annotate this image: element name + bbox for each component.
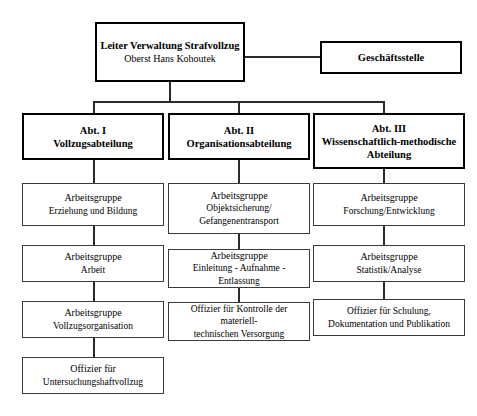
- connector-abt-1-child-3-to-4: [93, 338, 95, 357]
- connector-abt-2-child-2-to-3: [238, 288, 240, 302]
- node-abt-3-child-2-line2: Statistik/Analyse: [357, 265, 422, 275]
- node-geschaeftsstelle[interactable]: Geschäftsstelle: [320, 41, 462, 74]
- node-abt-2[interactable]: Abt. II Organisationsabteilung: [168, 113, 310, 160]
- node-abt-2-child-1-line3: Gefangenentransport: [199, 216, 279, 226]
- node-abt-3-child-1-line2: Forschung/Entwicklung: [343, 206, 434, 216]
- node-abt-3-line3: Abteilung: [367, 149, 411, 160]
- connector-abt-3-child-1-to-2: [383, 226, 385, 245]
- node-abt-3-line1: Abt. III: [372, 123, 406, 134]
- node-abt-3-child-3[interactable]: Offizier für Schulung, Dokumentation und…: [313, 299, 465, 336]
- node-abt-3-child-1-line1: Arbeitsgruppe: [360, 192, 417, 203]
- node-abt-1-child-1-line1: Arbeitsgruppe: [64, 192, 121, 203]
- node-abt-2-child-1-line2: Objektsicherung/: [206, 203, 271, 213]
- node-abt-1[interactable]: Abt. I Vollzugsabteilung: [22, 113, 164, 160]
- connector-abt-1-child-2-to-3: [93, 282, 95, 301]
- connector-abt-3-to-child-1: [383, 169, 385, 183]
- connector-bus-to-abt-2: [238, 101, 240, 113]
- node-abt-3-child-3-line2: Dokumentation und Publikation: [328, 319, 450, 329]
- connector-abt-1-child-1-to-2: [93, 226, 95, 245]
- node-abt-1-child-3[interactable]: Arbeitsgruppe Vollzugsorganisation: [22, 301, 164, 338]
- connector-bus-to-abt-3: [383, 101, 385, 113]
- node-abt-1-child-2-line2: Arbeit: [81, 265, 105, 275]
- node-abt-1-child-1[interactable]: Arbeitsgruppe Erziehung und Bildung: [22, 183, 164, 226]
- node-abt-1-child-3-line1: Arbeitsgruppe: [64, 307, 121, 318]
- connector-bus-to-abt-1: [93, 101, 95, 113]
- node-abt-2-child-2-line1: Arbeitsgruppe: [210, 250, 267, 261]
- node-abt-2-child-3-line1: Offizier für Kontrolle der materiell-: [191, 304, 288, 327]
- node-abt-2-child-3[interactable]: Offizier für Kontrolle der materiell- te…: [168, 302, 310, 341]
- connector-root-to-geschaeftsstelle: [245, 56, 320, 58]
- node-abt-1-line2: Vollzugsabteilung: [53, 138, 133, 149]
- node-root[interactable]: Leiter Verwaltung Strafvollzug Oberst Ha…: [95, 22, 245, 82]
- node-abt-2-child-3-line2: technischen Versorgung: [194, 329, 285, 339]
- node-abt-3[interactable]: Abt. III Wissenschaftlich-methodische Ab…: [313, 113, 465, 169]
- connector-root-trunk: [169, 82, 171, 102]
- node-abt-3-child-3-line1: Offizier für Schulung,: [347, 306, 431, 316]
- node-root-subtitle: Oberst Hans Kohoutek: [124, 53, 216, 64]
- node-abt-3-child-1[interactable]: Arbeitsgruppe Forschung/Entwicklung: [313, 183, 465, 226]
- node-abt-3-line2: Wissenschaftlich-methodische: [322, 136, 457, 147]
- node-abt-2-line1: Abt. II: [224, 125, 254, 136]
- node-abt-2-child-2[interactable]: Arbeitsgruppe Einleitung - Aufnahme - En…: [168, 249, 310, 288]
- node-abt-1-child-2[interactable]: Arbeitsgruppe Arbeit: [22, 245, 164, 282]
- connector-abt-3-child-2-to-3: [383, 282, 385, 299]
- node-abt-3-child-2-line1: Arbeitsgruppe: [360, 251, 417, 262]
- node-abt-1-line1: Abt. I: [80, 125, 106, 136]
- node-abt-1-child-1-line2: Erziehung und Bildung: [49, 206, 138, 216]
- node-root-title: Leiter Verwaltung Strafvollzug: [100, 40, 239, 51]
- node-abt-2-child-2-line2: Einleitung - Aufnahme - Entlassung: [193, 263, 286, 286]
- node-abt-2-child-1[interactable]: Arbeitsgruppe Objektsicherung/ Gefangene…: [168, 183, 310, 234]
- org-chart: Leiter Verwaltung Strafvollzug Oberst Ha…: [0, 0, 477, 416]
- connector-abt-2-to-child-1: [238, 160, 240, 183]
- node-geschaeftsstelle-title: Geschäftsstelle: [322, 51, 460, 64]
- connector-abt-1-to-child-1: [93, 160, 95, 183]
- node-abt-1-child-2-line1: Arbeitsgruppe: [64, 251, 121, 262]
- node-abt-3-child-2[interactable]: Arbeitsgruppe Statistik/Analyse: [313, 245, 465, 282]
- connector-abt-2-child-1-to-2: [238, 234, 240, 249]
- node-abt-2-line2: Organisationsabteilung: [186, 138, 291, 149]
- node-abt-1-child-4[interactable]: Offizier für Untersuchungshaftvollzug: [22, 357, 164, 394]
- node-abt-1-child-4-line2: Untersuchungshaftvollzug: [43, 377, 143, 387]
- node-abt-2-child-1-line1: Arbeitsgruppe: [210, 190, 267, 201]
- node-abt-1-child-4-line1: Offizier für: [70, 363, 116, 374]
- node-abt-1-child-3-line2: Vollzugsorganisation: [53, 321, 133, 331]
